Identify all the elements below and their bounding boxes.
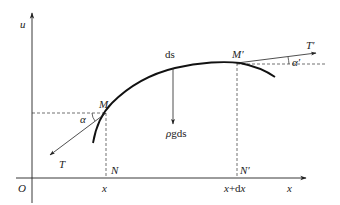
point-N-label: N xyxy=(110,164,119,176)
angle-alpha-prime-label: α′ xyxy=(292,56,301,68)
element-ds-label: ds xyxy=(165,48,175,60)
x-axis-label: x xyxy=(286,182,292,194)
chain-element-diagram: u O x M M′ N N′ x x+dx T T′ α α′ ds ρgds xyxy=(0,0,340,205)
point-M-prime-label: M′ xyxy=(231,48,244,60)
tension-T-arrow xyxy=(50,113,106,155)
point-M-label: M xyxy=(98,98,109,110)
tension-T-prime-label: T′ xyxy=(306,39,315,51)
tick-x-label: x xyxy=(101,182,107,194)
angle-alpha-prime-arc xyxy=(288,57,289,64)
tension-T-prime-arrow xyxy=(237,53,316,63)
angle-alpha-label: α xyxy=(80,113,86,125)
origin-label: O xyxy=(18,182,26,194)
tension-T-label: T xyxy=(59,158,66,170)
angle-alpha-arc xyxy=(92,113,95,121)
weight-label: ρgds xyxy=(165,127,187,139)
u-axis-label: u xyxy=(20,18,26,30)
point-N-prime-label: N′ xyxy=(239,164,250,176)
tick-x-plus-dx-label: x+dx xyxy=(223,182,246,194)
